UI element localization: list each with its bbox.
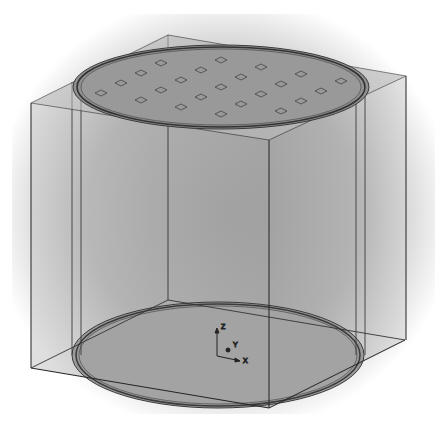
axis-label-z: Z xyxy=(221,323,226,330)
bottom-disc xyxy=(72,302,364,408)
model-canvas: Z Y X xyxy=(0,0,446,429)
axis-label-x: X xyxy=(243,357,248,364)
model-viewport[interactable]: Z Y X xyxy=(0,0,446,429)
top-disc xyxy=(73,45,369,129)
axis-label-y: Y xyxy=(233,341,238,348)
